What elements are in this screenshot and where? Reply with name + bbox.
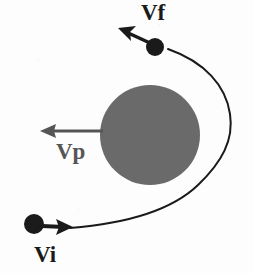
vector-vp <box>40 124 103 138</box>
vector-vi <box>24 214 73 235</box>
slingshot-diagram <box>0 0 253 273</box>
label-vi: Vi <box>34 243 56 266</box>
figure-canvas: Vf Vp Vi <box>0 0 253 273</box>
vector-vf <box>118 26 164 56</box>
vp-arrow-head <box>40 124 56 138</box>
label-vf: Vf <box>141 1 165 24</box>
label-vp: Vp <box>56 140 85 163</box>
spacecraft-initial-dot <box>24 214 44 234</box>
planet-circle <box>100 85 200 185</box>
